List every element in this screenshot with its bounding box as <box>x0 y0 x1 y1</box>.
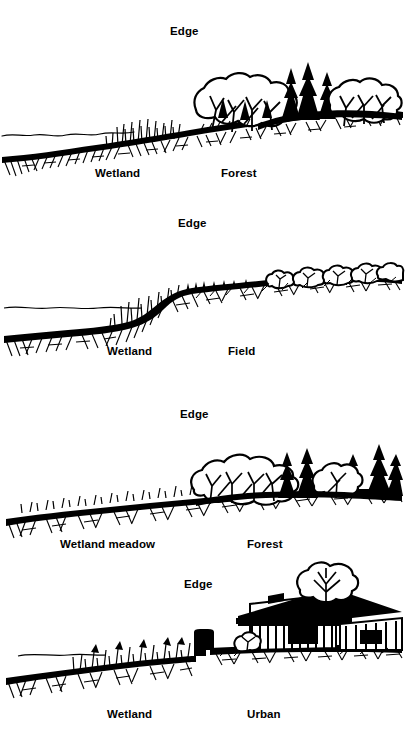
water-surface-line <box>18 654 106 656</box>
panel-forest-edge-label: Edge <box>170 25 199 38</box>
house-fascia <box>236 618 350 624</box>
panel-field-left-label: Wetland <box>107 345 152 358</box>
wetland-ground-line <box>6 656 196 685</box>
panel-forest-drawing <box>0 0 405 190</box>
panel-field-right-label: Field <box>228 345 255 358</box>
panel-wetland-meadow-left-label: Wetland meadow <box>60 538 155 551</box>
soil-hatching <box>4 116 400 176</box>
panel-wetland-meadow: Edge Wetland meadow Forest <box>0 380 405 560</box>
reed-heads <box>91 637 185 653</box>
panel-forest-left-label: Wetland <box>95 167 140 180</box>
panel-forest: Edge Wetland Forest <box>0 0 405 190</box>
panel-forest-right-label: Forest <box>221 167 257 180</box>
panel-urban-right-label: Urban <box>247 708 281 721</box>
panel-wetland-meadow-drawing <box>0 380 405 560</box>
water-surface-line <box>2 132 134 136</box>
panel-field: Edge Wetland Field <box>0 190 405 380</box>
panel-urban-edge-label: Edge <box>184 578 213 591</box>
wetland-edge-figure: Edge Wetland Forest <box>0 0 405 738</box>
panel-urban: Edge Wetland Urban <box>0 560 405 738</box>
panel-urban-left-label: Wetland <box>107 708 152 721</box>
panel-field-edge-label: Edge <box>178 217 207 230</box>
panel-wetland-meadow-right-label: Forest <box>247 538 283 551</box>
house-window-large <box>288 626 318 644</box>
panel-wetland-meadow-edge-label: Edge <box>180 408 209 421</box>
house-window-right <box>360 630 382 644</box>
